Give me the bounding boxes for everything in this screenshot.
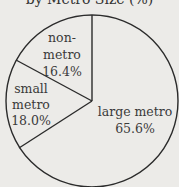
label-small-metro-1: small <box>14 81 48 96</box>
pie-chart: non- metro 16.4% small metro 18.0% large… <box>0 0 179 187</box>
label-non-metro-1: non- <box>48 30 76 45</box>
label-non-metro-2: metro <box>43 47 81 62</box>
label-non-metro-value: 16.4% <box>42 64 82 79</box>
label-small-metro-value: 18.0% <box>11 113 51 128</box>
label-small-metro-2: metro <box>12 97 50 112</box>
label-large-metro-value: 65.6% <box>115 121 155 136</box>
label-large-metro-1: large metro <box>98 104 173 119</box>
